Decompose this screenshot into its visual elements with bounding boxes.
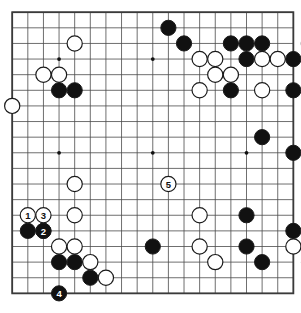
- star-point: [57, 151, 61, 155]
- white-stone[interactable]: [208, 51, 223, 66]
- numbered-move-2[interactable]: 2: [36, 223, 51, 238]
- white-stone[interactable]: [208, 255, 223, 270]
- black-stone[interactable]: [51, 83, 66, 98]
- white-stone[interactable]: [67, 36, 82, 51]
- white-stone[interactable]: [98, 270, 113, 285]
- star-point: [57, 57, 61, 61]
- white-stone[interactable]: [67, 208, 82, 223]
- move-number-label: 2: [41, 226, 46, 237]
- white-stone[interactable]: [36, 67, 51, 82]
- move-number-label: 4: [56, 288, 62, 299]
- white-stone[interactable]: [192, 83, 207, 98]
- black-stone[interactable]: [286, 223, 301, 238]
- star-point: [151, 57, 155, 61]
- white-stone[interactable]: [83, 255, 98, 270]
- move-number-label: 3: [41, 210, 46, 221]
- black-stone[interactable]: [67, 255, 82, 270]
- white-stone[interactable]: [223, 67, 238, 82]
- black-stone[interactable]: [255, 36, 270, 51]
- black-stone[interactable]: [161, 20, 176, 35]
- numbered-move-3[interactable]: 3: [36, 208, 51, 223]
- white-stone[interactable]: [51, 67, 66, 82]
- black-stone[interactable]: [83, 270, 98, 285]
- white-stone[interactable]: [270, 51, 285, 66]
- go-problem-screenshot: 12345: [0, 0, 301, 313]
- white-stone[interactable]: [286, 239, 301, 254]
- go-board-container[interactable]: 12345: [0, 0, 301, 313]
- white-stone[interactable]: [67, 239, 82, 254]
- numbered-move-4[interactable]: 4: [51, 286, 66, 301]
- black-stone[interactable]: [239, 208, 254, 223]
- black-stone[interactable]: [51, 255, 66, 270]
- move-number-label: 5: [166, 179, 172, 190]
- black-stone[interactable]: [67, 83, 82, 98]
- numbered-move-1[interactable]: 1: [20, 208, 35, 223]
- black-stone[interactable]: [20, 223, 35, 238]
- white-stone[interactable]: [208, 67, 223, 82]
- black-stone[interactable]: [176, 36, 191, 51]
- star-point: [245, 151, 249, 155]
- move-number-label: 1: [25, 210, 31, 221]
- white-stone[interactable]: [192, 208, 207, 223]
- black-stone[interactable]: [286, 83, 301, 98]
- go-board-svg[interactable]: 12345: [0, 0, 301, 313]
- numbered-move-5[interactable]: 5: [161, 176, 176, 191]
- black-stone[interactable]: [239, 51, 254, 66]
- black-stone[interactable]: [145, 239, 160, 254]
- black-stone[interactable]: [255, 130, 270, 145]
- black-stone[interactable]: [239, 239, 254, 254]
- black-stone[interactable]: [286, 51, 301, 66]
- white-stone[interactable]: [51, 239, 66, 254]
- black-stone[interactable]: [239, 36, 254, 51]
- black-stone[interactable]: [223, 83, 238, 98]
- black-stone[interactable]: [286, 145, 301, 160]
- star-point: [151, 151, 155, 155]
- white-stone[interactable]: [255, 51, 270, 66]
- white-stone[interactable]: [67, 176, 82, 191]
- black-stone[interactable]: [223, 36, 238, 51]
- black-stone[interactable]: [255, 255, 270, 270]
- white-stone[interactable]: [5, 98, 20, 113]
- white-stone[interactable]: [192, 239, 207, 254]
- white-stone[interactable]: [255, 83, 270, 98]
- white-stone[interactable]: [192, 51, 207, 66]
